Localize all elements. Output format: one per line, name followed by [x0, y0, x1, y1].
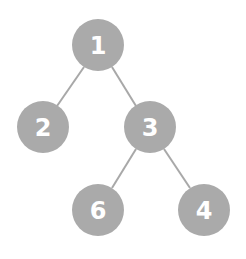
edge-1-2 [57, 67, 84, 106]
tree-node-6: 6 [72, 184, 124, 236]
tree-node-2: 2 [17, 101, 69, 153]
node-label: 6 [90, 197, 107, 225]
tree-diagram: 1 2 3 6 4 [0, 0, 246, 259]
edge-3-4 [164, 149, 190, 188]
node-label: 4 [196, 197, 213, 225]
edge-3-6 [112, 149, 136, 188]
node-label: 3 [142, 114, 159, 142]
edge-1-3 [112, 67, 136, 106]
tree-node-1: 1 [72, 19, 124, 71]
tree-node-4: 4 [178, 184, 230, 236]
tree-node-3: 3 [124, 101, 176, 153]
node-label: 2 [35, 114, 52, 142]
node-label: 1 [90, 32, 107, 60]
